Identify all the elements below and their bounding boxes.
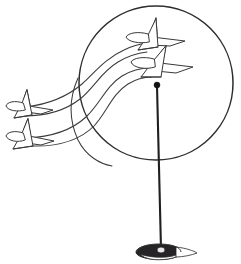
bird-lower-right-wing-left xyxy=(131,58,155,69)
bird-upper-left-wing-left xyxy=(6,102,25,111)
bird-lower-left-wing-left xyxy=(6,132,25,142)
pivot-hub-dot xyxy=(154,82,160,88)
line-drawing xyxy=(0,0,241,264)
base-center-nub xyxy=(157,247,165,253)
bird-lower-right xyxy=(131,46,193,77)
ribbon-upper-edge-a xyxy=(26,43,148,107)
figure-canvas: Kinetic bird mobile line drawing Black l… xyxy=(0,0,241,264)
bird-lower-left xyxy=(6,119,54,149)
bird-upper-right-wing-left xyxy=(126,33,149,43)
support-pole xyxy=(157,86,161,249)
base-assembly xyxy=(136,244,197,260)
